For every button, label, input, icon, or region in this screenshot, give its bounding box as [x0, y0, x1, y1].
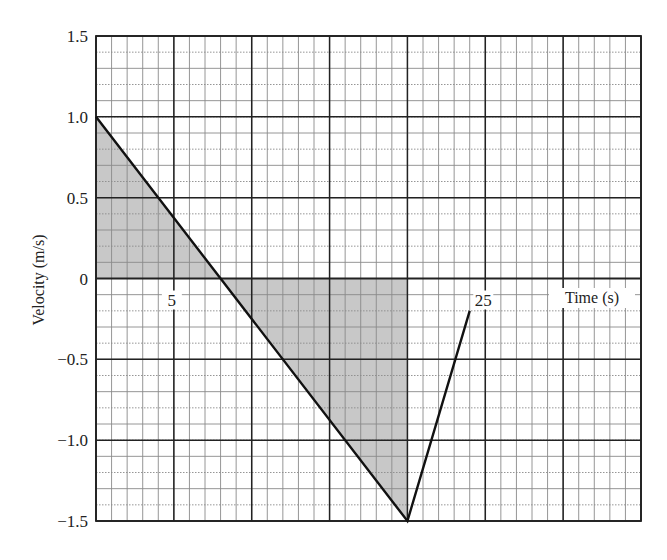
y-tick-label: 1.0 — [67, 108, 88, 127]
x-tick-label: 25 — [475, 291, 492, 310]
y-tick-label: −1.0 — [57, 431, 88, 450]
velocity-time-chart: 1.51.00.50−0.5−1.0−1.5 525 Time (s) Velo… — [0, 0, 667, 560]
x-tick-label: 5 — [168, 291, 177, 310]
y-tick-label: −1.5 — [57, 512, 88, 531]
y-axis-label: Velocity (m/s) — [30, 234, 48, 325]
y-tick-labels: 1.51.00.50−0.5−1.0−1.5 — [57, 27, 88, 531]
y-tick-label: −0.5 — [57, 350, 88, 369]
y-tick-label: 1.5 — [67, 27, 88, 46]
y-tick-label: 0 — [80, 270, 89, 289]
y-tick-label: 0.5 — [67, 189, 88, 208]
x-axis-label: Time (s) — [565, 289, 619, 307]
